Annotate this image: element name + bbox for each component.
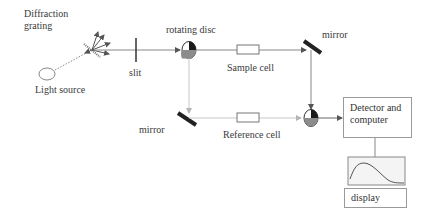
mirror-top-icon: [304, 41, 321, 53]
light-source-label: Light source: [35, 84, 85, 96]
slit-label: slit: [129, 67, 141, 79]
reference-cell-label: Reference cell: [223, 129, 280, 141]
detector-label-line1: Detector and: [344, 98, 411, 114]
grating-label-line1: Diffraction: [24, 8, 68, 19]
diffraction-grating-label: Diffraction grating: [24, 8, 68, 32]
light-path-dotted: [55, 52, 88, 70]
rotating-disc-label: rotating disc: [166, 24, 216, 36]
display-box: display: [344, 188, 407, 208]
sample-cell-icon: [237, 45, 259, 54]
sample-cell-label: Sample cell: [227, 62, 274, 74]
rotating-disc-2-icon: [304, 110, 318, 127]
display-graph: [348, 157, 405, 185]
diffraction-grating-icon: [84, 32, 110, 57]
rotating-disc-icon: [181, 42, 196, 59]
detector-computer-box: Detector and computer: [343, 97, 412, 138]
display-label: display: [345, 189, 406, 207]
reference-cell-icon: [237, 113, 259, 122]
light-source-icon: [39, 68, 55, 80]
mirror-bottom-label: mirror: [139, 124, 165, 136]
grating-label-line2: grating: [24, 20, 52, 31]
mirror-bottom-icon: [178, 113, 196, 125]
mirror-top-label: mirror: [322, 29, 348, 41]
detector-label-line2: computer: [344, 114, 411, 126]
